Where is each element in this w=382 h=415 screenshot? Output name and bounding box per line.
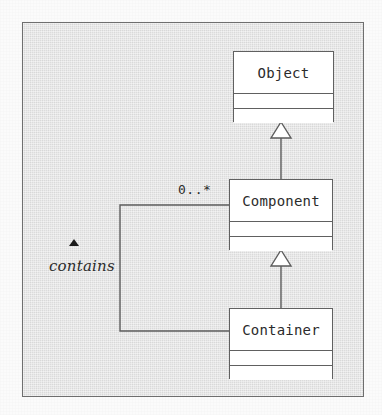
diagram-frame: Object generalization --> Component gene… xyxy=(22,22,364,397)
page-background: Object generalization --> Component gene… xyxy=(0,0,382,415)
solid-triangle-up-icon xyxy=(69,239,79,246)
association-name-label: contains xyxy=(49,257,115,275)
association-path-contains xyxy=(120,205,229,331)
diagram-canvas: Object generalization --> Component gene… xyxy=(23,23,363,396)
uml-attribute-compartment-container xyxy=(230,350,332,365)
uml-attribute-compartment-component xyxy=(230,221,332,236)
uml-attribute-compartment-object xyxy=(234,93,333,108)
multiplicity-label: 0..* xyxy=(178,182,211,197)
uml-operation-compartment-component xyxy=(230,236,332,251)
uml-class-name-component: Component xyxy=(230,180,332,221)
hollow-triangle-arrowhead-object xyxy=(271,122,291,138)
uml-class-object[interactable]: Object xyxy=(233,51,334,122)
uml-operation-compartment-object xyxy=(234,108,333,123)
uml-class-name-object: Object xyxy=(234,52,333,93)
uml-class-container[interactable]: Container xyxy=(229,308,333,379)
uml-class-name-container: Container xyxy=(230,309,332,350)
uml-class-component[interactable]: Component xyxy=(229,179,333,250)
hollow-triangle-arrowhead-component xyxy=(271,250,291,266)
uml-operation-compartment-container xyxy=(230,365,332,380)
